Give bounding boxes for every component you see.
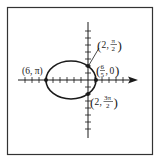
svg-text:6: 6 — [101, 63, 105, 71]
label-top-point: ( 2 , π 2 ) — [97, 37, 122, 54]
svg-text:0: 0 — [110, 66, 115, 76]
polar-axis — [18, 77, 138, 84]
polar-graph-figure: (6, π) ( 2 , π 2 ) ( 6 5 , 0 ) ( 2 , 3π — [0, 0, 155, 161]
label-right-vertex: ( 6 5 , 0 ) — [96, 63, 119, 80]
point-right-vertex — [94, 78, 98, 82]
svg-text:,: , — [107, 40, 109, 50]
label-left-vertex: (6, π) — [22, 66, 43, 77]
svg-text:,: , — [106, 66, 108, 76]
svg-text:π: π — [112, 37, 116, 45]
label-bottom-point: ( 2 , 3π 2 ) — [90, 94, 118, 111]
svg-text:): ) — [118, 38, 122, 53]
graph-canvas: (6, π) ( 2 , π 2 ) ( 6 5 , 0 ) ( 2 , 3π — [0, 0, 155, 161]
svg-text:): ) — [115, 63, 119, 78]
svg-text:,: , — [100, 97, 102, 107]
svg-text:5: 5 — [101, 71, 105, 79]
svg-text:2: 2 — [106, 102, 110, 110]
point-left-vertex — [44, 78, 48, 82]
svg-text:2: 2 — [112, 45, 116, 53]
svg-text:3π: 3π — [104, 94, 112, 102]
svg-text:): ) — [114, 95, 118, 110]
